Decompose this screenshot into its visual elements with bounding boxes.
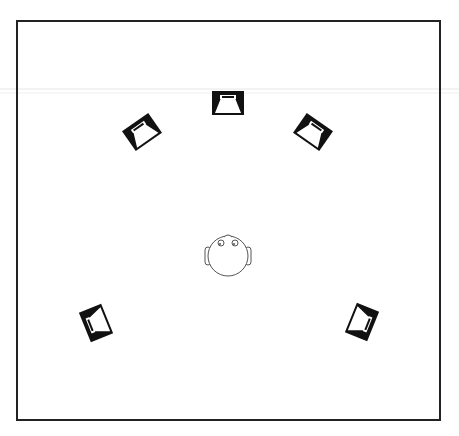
- speaker-layout-diagram: [0, 0, 459, 436]
- room-outline: [17, 21, 440, 420]
- speaker-front-left-icon: [122, 113, 162, 151]
- speaker-center-icon: [212, 91, 244, 115]
- listener-head-icon: [205, 235, 251, 276]
- speaker-surround-left-icon: [79, 304, 113, 343]
- speaker-front-right-icon: [293, 113, 333, 151]
- speaker-surround-right-icon: [345, 303, 379, 342]
